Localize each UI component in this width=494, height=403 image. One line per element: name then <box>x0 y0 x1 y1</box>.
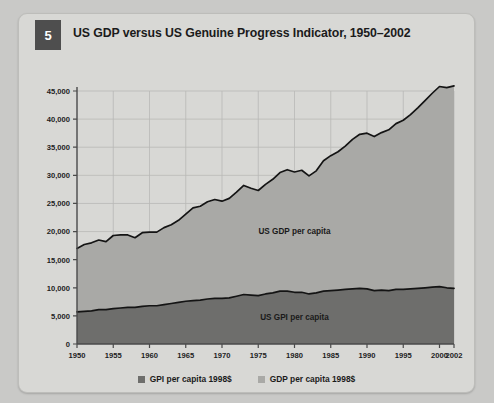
y-tick-label: 0 <box>66 340 70 349</box>
gdp-series-label: US GDP per capita <box>258 227 331 236</box>
series-areas <box>77 86 454 344</box>
gpi-series-label: US GPI per capita <box>260 313 329 322</box>
screenshot-root: 5 US GDP versus US Genuine Progress Indi… <box>0 0 494 403</box>
y-tick-label: 10,000 <box>47 284 70 293</box>
x-tick-label: 1980 <box>286 351 303 360</box>
x-tick-label: 1965 <box>177 351 195 360</box>
x-tick-label: 2002 <box>446 351 463 360</box>
legend-label-gdp: GDP per capita 1998$ <box>270 374 356 384</box>
x-tick-label: 1950 <box>69 351 86 360</box>
y-tick-label: 40,000 <box>47 115 70 124</box>
y-tick-label: 35,000 <box>47 143 70 152</box>
legend-swatch-gpi <box>138 376 145 383</box>
chart-legend: GPI per capita 1998$ GDP per capita 1998… <box>19 374 474 384</box>
chart-area: 05,00010,00015,00020,00025,00030,00035,0… <box>19 56 474 392</box>
y-tick-label: 5,000 <box>51 312 70 321</box>
page-title: US GDP versus US Genuine Progress Indica… <box>73 26 410 40</box>
y-axis-ticks: 05,00010,00015,00020,00025,00030,00035,0… <box>47 87 77 349</box>
x-tick-label: 1975 <box>250 351 268 360</box>
legend-item-gdp: GDP per capita 1998$ <box>258 374 356 384</box>
y-tick-label: 20,000 <box>47 227 70 236</box>
figure-card: 5 US GDP versus US Genuine Progress Indi… <box>18 13 475 393</box>
legend-label-gpi: GPI per capita 1998$ <box>150 374 232 384</box>
area-chart: 05,00010,00015,00020,00025,00030,00035,0… <box>19 56 474 392</box>
x-axis-ticks: 1950195519601965197019751980198519901995… <box>69 344 463 360</box>
x-tick-label: 1955 <box>105 351 123 360</box>
y-tick-label: 45,000 <box>47 87 70 96</box>
legend-item-gpi: GPI per capita 1998$ <box>138 374 232 384</box>
x-tick-label: 1995 <box>395 351 413 360</box>
legend-swatch-gdp <box>258 376 265 383</box>
x-tick-label: 1985 <box>322 351 340 360</box>
x-tick-label: 1970 <box>214 351 231 360</box>
figure-header: 5 US GDP versus US Genuine Progress Indi… <box>19 20 474 54</box>
y-tick-label: 15,000 <box>47 256 70 265</box>
figure-number-badge: 5 <box>35 20 61 50</box>
x-tick-label: 1990 <box>359 351 376 360</box>
y-tick-label: 30,000 <box>47 171 70 180</box>
x-tick-label: 1960 <box>141 351 158 360</box>
y-tick-label: 25,000 <box>47 199 70 208</box>
